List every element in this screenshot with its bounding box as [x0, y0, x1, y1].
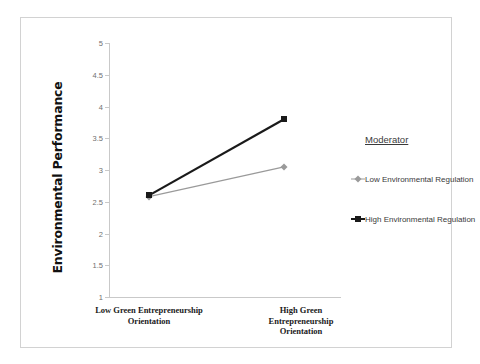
y-axis-tick-label: 2.5: [93, 197, 103, 206]
y-axis-tick-label: 4: [99, 102, 103, 111]
x-axis-category-line: High Green: [226, 305, 376, 316]
x-axis-category-line: Orientation: [74, 316, 224, 327]
legend-sample-icon: [351, 174, 365, 184]
y-axis-title: Environmental Performance: [50, 78, 65, 278]
figure-frame: Environmental Performance 54.543.532.521…: [20, 17, 452, 348]
x-axis-category-label-low: Low Green EntrepreneurshipOrientation: [74, 305, 224, 326]
y-axis-tick-label: 5: [99, 39, 103, 48]
series-lines: [109, 43, 341, 297]
y-axis-tick-label: 2: [99, 229, 103, 238]
plot-area: 54.543.532.521.51 Low Green Entrepreneur…: [109, 43, 341, 297]
series-line-1: [149, 119, 284, 195]
legend-title: Moderator: [365, 134, 480, 145]
series-line-0: [149, 167, 284, 197]
legend-entry-1: High Environmental Regulation: [351, 214, 480, 224]
legend-entry-label: Low Environmental Regulation: [365, 175, 474, 184]
data-point-marker: [281, 116, 287, 122]
y-axis-tick-label: 1: [99, 293, 103, 302]
y-axis-tick-label: 3: [99, 166, 103, 175]
legend-sample-icon: [351, 214, 365, 224]
x-axis-category-line: Entrepreneurship: [226, 316, 376, 327]
y-axis-tick-label: 3.5: [93, 134, 103, 143]
y-axis-tick-label: 4.5: [93, 70, 103, 79]
legend: Moderator Low Environmental RegulationHi…: [351, 134, 480, 254]
y-axis-tick-mark: [105, 297, 109, 298]
legend-entries: Low Environmental RegulationHigh Environ…: [351, 174, 480, 224]
data-point-marker: [146, 192, 152, 198]
legend-entry-0: Low Environmental Regulation: [351, 174, 480, 184]
y-axis-tick-label: 1.5: [93, 261, 103, 270]
x-axis-category-line: Low Green Entrepreneurship: [74, 305, 224, 316]
legend-entry-label: High Environmental Regulation: [365, 215, 475, 224]
x-axis-category-line: Orientation: [226, 326, 376, 337]
x-axis-category-label-high: High GreenEntrepreneurshipOrientation: [226, 305, 376, 337]
x-axis-line: [109, 297, 341, 298]
